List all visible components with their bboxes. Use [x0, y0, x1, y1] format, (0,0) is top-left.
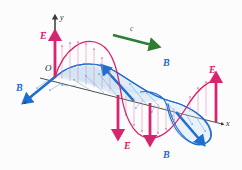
x-axis-label: x — [226, 120, 230, 128]
y-axis-label: y — [60, 14, 64, 22]
vector-arrow-icon: → — [162, 54, 171, 63]
e-field-label-trough: →E — [124, 141, 131, 151]
b-field-shading — [55, 65, 211, 142]
propagation-direction-arrow — [113, 35, 152, 45]
em-wave-figure: y x z O →E →E →E →B →B →B c — [0, 0, 242, 170]
b-field-label-crest: →B — [163, 58, 170, 68]
vector-arrow-icon: → — [39, 27, 48, 36]
b-vector-origin — [28, 77, 55, 99]
b-field-label-origin: →B — [16, 83, 23, 93]
vector-arrow-icon: → — [162, 146, 171, 155]
vector-arrow-icon: → — [15, 79, 24, 88]
propagation-speed-label: c — [130, 25, 134, 33]
e-field-label-origin: →E — [40, 31, 47, 41]
origin-label: O — [45, 64, 52, 73]
z-axis-label: z — [24, 99, 27, 106]
e-field-label-right: →E — [209, 65, 216, 75]
b-field-label-trough: →B — [163, 150, 170, 160]
em-wave-drawing — [0, 0, 242, 170]
vector-arrow-icon: → — [123, 137, 132, 146]
vector-arrow-icon: → — [208, 61, 217, 70]
